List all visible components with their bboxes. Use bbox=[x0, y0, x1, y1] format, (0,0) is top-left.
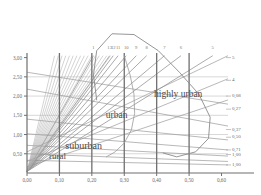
x-axis-tick-label: 0,00 bbox=[17, 177, 37, 183]
x-axis-tick-label: 0,10 bbox=[49, 177, 69, 183]
x-axis-tick-label: 0,60 bbox=[212, 177, 232, 183]
y-axis-tick-label: 1,00 bbox=[2, 132, 22, 138]
right-value-label: 1,00 bbox=[232, 162, 241, 167]
chart-container: 0,501,001,502,002,503,00 0,000,100,200,3… bbox=[0, 0, 261, 195]
x-axis-tick-label: 0,30 bbox=[114, 177, 134, 183]
ray-number-label: 1 bbox=[87, 45, 99, 50]
ray-number-label: 5 bbox=[207, 45, 219, 50]
ray-number-label: 7 bbox=[158, 45, 170, 50]
y-axis-tick-label: 2,50 bbox=[2, 74, 22, 80]
right-value-label: 0,50 bbox=[232, 134, 241, 139]
x-axis-tick-label: 0,40 bbox=[147, 177, 167, 183]
x-axis-tick-label: 0,50 bbox=[179, 177, 199, 183]
zone-label-rural: rural bbox=[49, 151, 66, 161]
ray-number-label: 6 bbox=[175, 45, 187, 50]
zone-label-suburban: suburban bbox=[65, 140, 102, 151]
zone-label-highly-urban: highly urban bbox=[154, 89, 202, 99]
ray-number-label: 8 bbox=[141, 45, 153, 50]
right-value-label: 0,08 bbox=[232, 93, 241, 98]
y-axis-tick-label: 3,00 bbox=[2, 55, 22, 61]
x-axis-tick-label: 0,20 bbox=[82, 177, 102, 183]
descending-line bbox=[27, 160, 228, 165]
right-value-label: 4 bbox=[232, 77, 235, 82]
zone-label-urban: urban bbox=[106, 110, 128, 120]
y-axis-tick-label: 1,50 bbox=[2, 112, 22, 118]
right-value-label: 0,27 bbox=[232, 106, 241, 111]
y-axis-tick-label: 2,00 bbox=[2, 93, 22, 99]
right-value-label: 5 bbox=[232, 55, 235, 60]
chart-canvas bbox=[0, 0, 261, 195]
right-value-label: 0,37 bbox=[232, 127, 241, 132]
y-axis-tick-label: 0,50 bbox=[2, 151, 22, 157]
right-value-label: 1,00 bbox=[232, 152, 241, 157]
